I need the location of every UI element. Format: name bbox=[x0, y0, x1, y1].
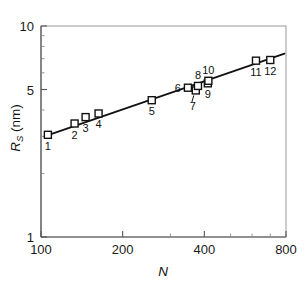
data-point-label: 9 bbox=[205, 88, 211, 100]
data-point-label: 8 bbox=[195, 69, 201, 81]
x-axis-title: N bbox=[158, 264, 168, 279]
figure-container: 100200400800 1510 123456789101112 N RS (… bbox=[0, 0, 305, 284]
y-tick-label: 1 bbox=[27, 230, 34, 245]
y-tick-label: 10 bbox=[20, 19, 34, 34]
data-point-label: 4 bbox=[96, 118, 102, 130]
data-point-marker bbox=[205, 77, 212, 84]
data-point-marker bbox=[71, 120, 78, 127]
y-axis-title: RS (nm) bbox=[8, 104, 25, 152]
data-point-label: 1 bbox=[45, 140, 51, 152]
log-log-scatter-chart: 100200400800 1510 123456789101112 N RS (… bbox=[0, 0, 305, 284]
data-point-marker bbox=[44, 131, 51, 138]
data-point-marker bbox=[252, 57, 259, 64]
data-point-label: 3 bbox=[83, 122, 89, 134]
data-point-label: 7 bbox=[190, 100, 196, 112]
x-tick-label: 400 bbox=[193, 242, 215, 257]
data-point-marker bbox=[267, 57, 274, 64]
data-point-label: 11 bbox=[250, 66, 261, 78]
y-axis-title-label: RS (nm) bbox=[8, 104, 25, 152]
x-tick-label: 200 bbox=[112, 242, 134, 257]
x-tick-label: 800 bbox=[275, 242, 297, 257]
data-point-label: 10 bbox=[202, 64, 214, 76]
data-point-marker bbox=[184, 84, 191, 91]
data-point-label: 12 bbox=[264, 65, 276, 77]
data-point-marker bbox=[82, 114, 89, 121]
data-point-marker bbox=[148, 97, 155, 104]
data-point-label: 6 bbox=[175, 82, 181, 94]
data-point-label: 2 bbox=[72, 129, 78, 141]
y-tick-label: 5 bbox=[27, 83, 34, 98]
data-point-label: 5 bbox=[149, 105, 155, 117]
data-point-marker bbox=[194, 82, 201, 89]
x-axis-title-label: N bbox=[158, 264, 168, 279]
data-point-marker bbox=[95, 110, 102, 117]
